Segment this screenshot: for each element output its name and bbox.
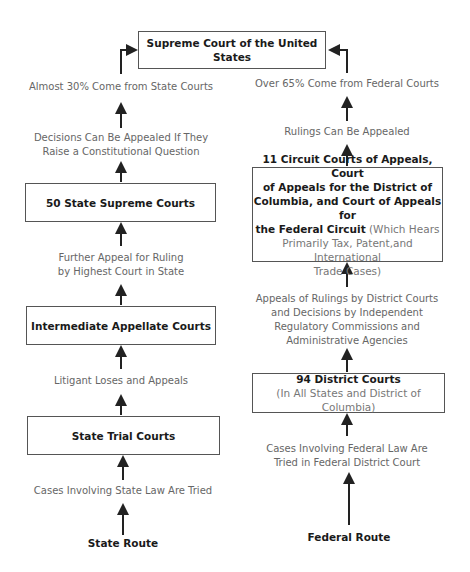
state-appeal-note: Decisions Can Be Appealed If They Raise … [21, 131, 221, 159]
circuit-courts-title-line: 11 Circuit Courts of Appeals, Court [263, 153, 433, 179]
federal-appeals-note-line: Regulatory Commissions and [247, 320, 447, 334]
federal-cases-note-line: Tried in Federal District Court [247, 456, 447, 470]
state-supreme-courts-title: 50 State Supreme Courts [46, 196, 195, 210]
state-supreme-courts-box: 50 State Supreme Courts [25, 183, 216, 222]
district-courts-subtitle: (In All States and District of Columbia) [253, 386, 444, 414]
circuit-courts-subtitle: (Which Hears [366, 223, 440, 235]
state-appeal-note-line: Raise a Constitutional Question [21, 145, 221, 159]
federal-top-note: Over 65% Come from Federal Courts [247, 77, 447, 91]
circuit-courts-title-line: the Federal Circuit [256, 223, 366, 235]
state-loses-note: Litigant Loses and Appeals [21, 374, 221, 388]
state-further-note: Further Appeal for Ruling by Highest Cou… [21, 251, 221, 279]
state-cases-note: Cases Involving State Law Are Tried [23, 484, 223, 498]
state-top-note: Almost 30% Come from State Courts [21, 80, 221, 94]
supreme-court-title: Supreme Court of the United States [139, 36, 325, 64]
state-appeal-note-line: Decisions Can Be Appealed If They [21, 131, 221, 145]
intermediate-appellate-courts-box: Intermediate Appellate Courts [26, 306, 216, 345]
state-trial-courts-box: State Trial Courts [27, 416, 220, 455]
federal-appeals-note-line: Administrative Agencies [247, 334, 447, 348]
federal-appeals-note-line: Appeals of Rulings by District Courts [247, 292, 447, 306]
federal-cases-note-line: Cases Involving Federal Law Are [247, 442, 447, 456]
district-courts-box: 94 District Courts (In All States and Di… [252, 373, 445, 413]
supreme-court-box: Supreme Court of the United States [138, 31, 326, 69]
federal-rulings-note: Rulings Can Be Appealed [247, 125, 447, 139]
state-further-note-line: by Highest Court in State [21, 265, 221, 279]
federal-route-label: Federal Route [249, 531, 449, 543]
circuit-courts-subtitle: Trade Cases) [314, 264, 381, 278]
circuit-courts-title-line: of Appeals for the District of [263, 181, 432, 193]
state-route-label: State Route [23, 537, 223, 549]
state-trial-courts-title: State Trial Courts [72, 429, 175, 443]
circuit-courts-subtitle: Primarily Tax, Patent,and International [253, 236, 442, 264]
circuit-courts-title-line: Columbia, and Court of Appeals for [254, 195, 441, 221]
circuit-courts-box: 11 Circuit Courts of Appeals, Court of A… [252, 167, 443, 262]
federal-appeals-note: Appeals of Rulings by District Courts an… [247, 292, 447, 348]
district-courts-title: 94 District Courts [296, 372, 400, 386]
intermediate-appellate-courts-title: Intermediate Appellate Courts [31, 319, 211, 333]
state-further-note-line: Further Appeal for Ruling [21, 251, 221, 265]
federal-appeals-note-line: and Decisions by Independent [247, 306, 447, 320]
federal-cases-note: Cases Involving Federal Law Are Tried in… [247, 442, 447, 470]
